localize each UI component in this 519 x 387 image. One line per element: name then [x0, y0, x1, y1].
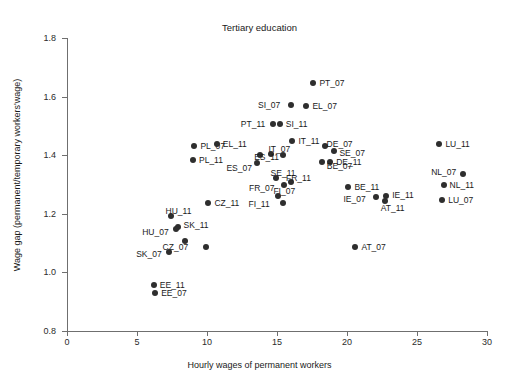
data-point-label: LU_07 [448, 196, 473, 205]
data-point-label: PL_11 [199, 156, 223, 165]
x-axis-tick [67, 331, 68, 336]
y-axis-tick [62, 272, 67, 273]
data-point [289, 138, 295, 144]
x-axis-tick [417, 331, 418, 336]
data-point-label: IE_11 [392, 191, 414, 200]
data-point [190, 157, 196, 163]
data-point-label: NL_11 [450, 181, 474, 190]
data-point-label: EL_11 [223, 140, 247, 149]
x-axis-tick [487, 331, 488, 336]
x-axis-tick-label: 20 [332, 338, 362, 347]
data-point-label: ES_07 [226, 164, 252, 173]
data-point-label: FI_07 [273, 187, 295, 196]
data-point [439, 197, 445, 203]
data-point-label: PT_07 [319, 79, 344, 88]
y-axis-tick-label: 1.2 [30, 210, 56, 219]
data-point-label: PL_07 [200, 142, 225, 151]
y-axis-tick [62, 97, 67, 98]
y-axis-tick-label: 1.6 [30, 93, 56, 102]
data-point [205, 200, 211, 206]
data-point [152, 290, 158, 296]
data-point-label: EE_07 [161, 289, 187, 298]
data-point-label: FI_11 [249, 200, 270, 209]
data-point [373, 194, 379, 200]
data-point [270, 121, 276, 127]
y-axis-tick-label: 1.8 [30, 34, 56, 43]
data-point-label: SK_11 [184, 221, 209, 230]
data-point-label: CZ_11 [214, 199, 239, 208]
x-axis-tick-label: 25 [402, 338, 432, 347]
x-axis-label: Hourly wages of permanent workers [0, 360, 519, 370]
data-point [303, 103, 309, 109]
data-point-label: NL_07 [431, 168, 456, 177]
data-point [173, 226, 179, 232]
data-point [151, 282, 157, 288]
data-point-label: FR_11 [286, 174, 311, 183]
data-point-label: BE_07 [327, 162, 353, 171]
data-point [436, 141, 442, 147]
y-axis-tick [62, 38, 67, 39]
data-point [460, 171, 466, 177]
y-axis-line [67, 38, 68, 331]
data-point-label: SK_07 [136, 250, 162, 259]
data-point-label: SI_07 [258, 101, 280, 110]
scatter-chart-figure: Tertiary education Wage gap (permanent/t… [0, 0, 519, 387]
data-point [288, 102, 294, 108]
x-axis-tick-label: 5 [122, 338, 152, 347]
data-point [310, 80, 316, 86]
data-point [352, 244, 358, 250]
data-point-label: HU_11 [166, 207, 192, 216]
data-point [319, 159, 325, 165]
data-point-label: AT_11 [381, 204, 405, 213]
x-axis-tick-label: 30 [472, 338, 502, 347]
y-axis-tick [62, 214, 67, 215]
x-axis-tick-label: 15 [262, 338, 292, 347]
data-point [280, 152, 286, 158]
data-point [166, 249, 172, 255]
data-point [277, 121, 283, 127]
data-point [345, 184, 351, 190]
data-point-label: BE_11 [354, 183, 379, 192]
data-point [203, 244, 209, 250]
data-point [441, 182, 447, 188]
data-point-label: EL_07 [312, 102, 337, 111]
y-axis-tick [62, 155, 67, 156]
data-point [254, 160, 260, 166]
data-point-label: PT_11 [241, 120, 265, 129]
data-point-label: AT_07 [361, 243, 385, 252]
x-axis-tick [207, 331, 208, 336]
data-point [331, 148, 337, 154]
y-axis-tick-label: 1.4 [30, 151, 56, 160]
data-point [191, 143, 197, 149]
y-axis-tick-label: 1.0 [30, 268, 56, 277]
x-axis-tick-label: 10 [192, 338, 222, 347]
data-point-label: IE_07 [343, 195, 365, 204]
data-point-label: SI_11 [286, 120, 308, 129]
x-axis-tick [137, 331, 138, 336]
data-point [280, 200, 286, 206]
x-axis-tick-label: 0 [52, 338, 82, 347]
chart-title: Tertiary education [0, 22, 519, 33]
data-point-label: HU_07 [142, 228, 168, 237]
data-point-label: LU_11 [445, 140, 469, 149]
data-point-label: FR_07 [249, 184, 275, 193]
data-point-label: IT_11 [298, 137, 319, 146]
y-axis-tick-label: 0.8 [30, 327, 56, 336]
x-axis-tick [347, 331, 348, 336]
y-axis-label: Wage gap (permanent/temporary workers'wa… [12, 65, 22, 285]
x-axis-tick [277, 331, 278, 336]
